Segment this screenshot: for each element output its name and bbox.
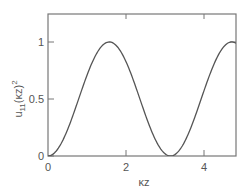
y-label-sup: 2 bbox=[10, 80, 19, 85]
svg-text:u11(κz)2: u11(κz)2 bbox=[10, 80, 27, 118]
plot-frame bbox=[48, 14, 236, 156]
y-tick-label-1: 1 bbox=[38, 36, 44, 48]
y-axis: 0 0.5 1 bbox=[29, 36, 236, 162]
y-axis-label: u11(κz)2 bbox=[10, 80, 27, 118]
x-axis: 0 2 4 bbox=[45, 14, 207, 173]
y-tick-label-0.5: 0.5 bbox=[29, 93, 44, 105]
y-tick-label-0: 0 bbox=[38, 150, 44, 162]
x-tick-label-4: 4 bbox=[201, 161, 207, 173]
x-axis-label: κz bbox=[139, 176, 150, 188]
x-tick-label-2: 2 bbox=[123, 161, 129, 173]
data-curve bbox=[48, 42, 236, 156]
y-label-rest: (κz) bbox=[12, 85, 24, 103]
chart: 0 0.5 1 0 2 4 κz u11(κz)2 bbox=[0, 0, 251, 190]
x-tick-label-0: 0 bbox=[45, 161, 51, 173]
